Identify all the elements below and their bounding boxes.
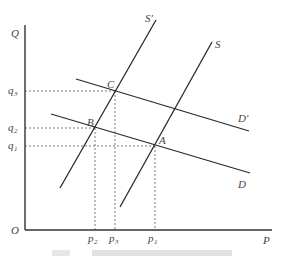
label-d: D (237, 178, 246, 190)
svg-text:p: p (147, 232, 154, 244)
svg-text:p: p (108, 232, 115, 244)
figure-caption: 图 — 需求与供给变动的均衡 (52, 250, 232, 256)
x-tick-p3: p 3 (108, 232, 119, 246)
label-s: S (215, 38, 221, 50)
y-tick-q1: q 1 (8, 139, 18, 153)
x-tick-p2: p 2 (87, 232, 98, 246)
y-tick-q3: q 3 (8, 84, 18, 98)
supply-demand-diagram: Q P O S′ S D′ D C B A q 3 q 2 q 1 p 2 p … (0, 0, 283, 256)
y-tick-q2: q 2 (8, 121, 18, 135)
label-s-prime: S′ (145, 12, 154, 24)
guide-lines (25, 91, 155, 230)
x-axis-label: P (262, 234, 270, 246)
point-label-b: B (87, 116, 94, 128)
demand-curve-d-prime (76, 79, 249, 131)
supply-curve-s-prime (60, 20, 156, 188)
point-label-c: C (107, 78, 115, 90)
svg-text:2: 2 (94, 238, 98, 246)
point-label-a: A (158, 134, 166, 146)
svg-text:3: 3 (13, 90, 18, 98)
y-axis-label: Q (11, 27, 19, 39)
supply-curve-s (120, 42, 212, 207)
origin-label: O (11, 224, 19, 236)
axes (25, 25, 272, 230)
svg-text:1: 1 (14, 145, 18, 153)
svg-text:1: 1 (154, 238, 158, 246)
x-tick-p1: p 1 (147, 232, 158, 246)
svg-text:3: 3 (114, 238, 119, 246)
label-d-prime: D′ (237, 112, 249, 124)
svg-text:p: p (87, 232, 94, 244)
svg-text:2: 2 (14, 127, 18, 135)
